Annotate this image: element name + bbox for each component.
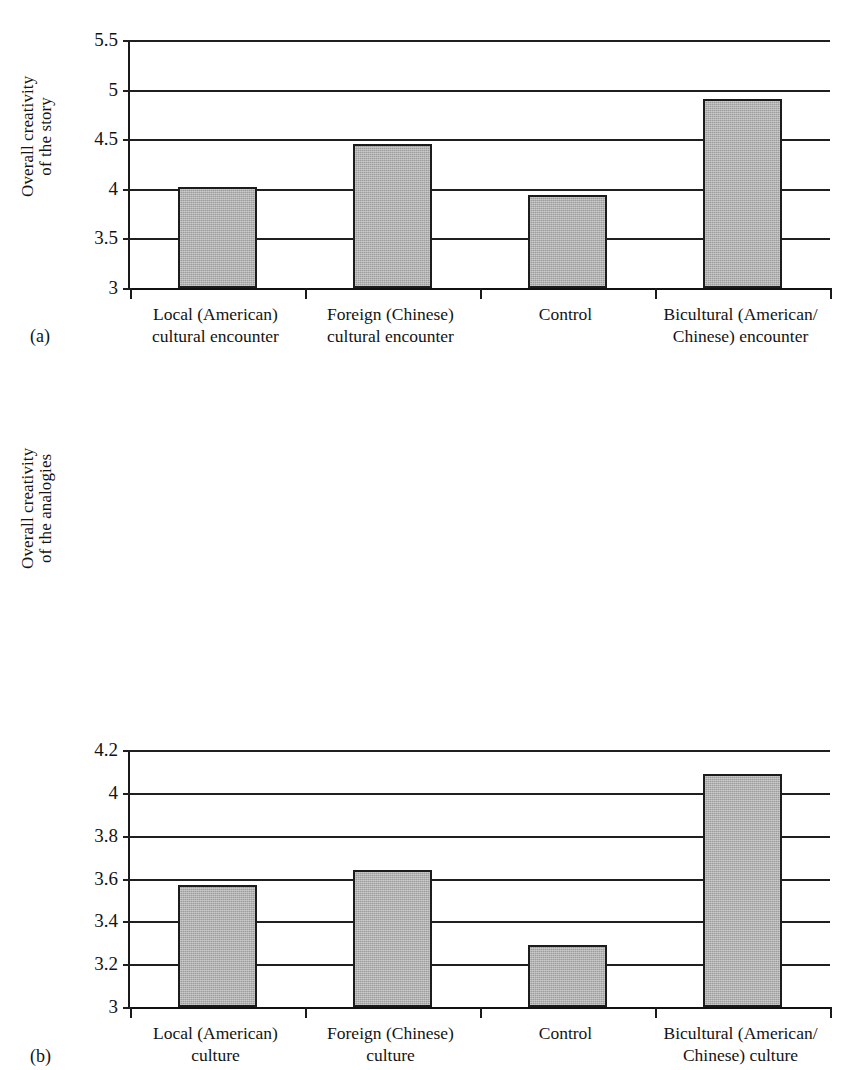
y-axis-tick-label-a: 3 [109, 277, 119, 299]
plot-area-a: 33.544.555.5 [128, 40, 830, 288]
y-axis-title-b: Overall creativity of the analogies [19, 408, 56, 608]
gridline-a [130, 40, 830, 42]
gridline-b [130, 750, 830, 752]
y-axis-tick-label-b: 4.2 [94, 739, 118, 761]
gridline-a [130, 90, 830, 92]
y-axis-tick-label-a: 4 [109, 177, 119, 199]
bar-a-2 [528, 195, 608, 288]
y-axis-tick-label-a: 4.5 [94, 128, 118, 150]
y-axis-tick-a [123, 238, 131, 240]
y-axis-tick-label-b: 3.8 [94, 824, 118, 846]
y-axis-tick-label-b: 3.4 [94, 910, 118, 932]
x-axis-end-tick-b [830, 1007, 832, 1018]
x-axis-tick-b [655, 1007, 657, 1018]
y-axis-tick-b [123, 836, 131, 838]
chart-panel-b: Overall creativity of the analogies 33.2… [0, 365, 851, 743]
panel-letter-b: (b) [30, 1046, 51, 1067]
y-axis-tick-b [123, 964, 131, 966]
y-axis-tick-label-a: 3.5 [94, 227, 118, 249]
y-axis-tick-label-a: 5 [109, 78, 119, 100]
y-axis-tick-b [123, 750, 131, 752]
bar-a-3 [703, 99, 783, 288]
x-axis-end-tick-b [130, 1007, 132, 1018]
x-axis-labels-b: Local (American) cultureForeign (Chinese… [128, 1022, 828, 1070]
x-axis-category-label-b-3: Bicultural (American/ Chinese) culture [653, 1022, 828, 1067]
y-axis-tick-label-b: 3 [109, 996, 119, 1018]
x-axis-category-label-b-0: Local (American) culture [128, 1022, 303, 1067]
x-axis-category-label-a-1: Foreign (Chinese) cultural encounter [303, 303, 478, 348]
x-axis-category-label-a-0: Local (American) cultural encounter [128, 303, 303, 348]
x-axis-tick-b [480, 1007, 482, 1018]
x-axis-tick-a [655, 288, 657, 299]
y-axis-tick-b [123, 793, 131, 795]
x-axis-category-label-a-3: Bicultural (American/ Chinese) encounter [653, 303, 828, 348]
panel-letter-a: (a) [30, 326, 50, 347]
bar-b-2 [528, 945, 608, 1007]
x-axis-category-label-b-2: Control [478, 1022, 653, 1044]
x-axis-tick-a [480, 288, 482, 299]
y-axis-title-a: Overall creativity of the story [19, 36, 56, 236]
x-axis-tick-a [305, 288, 307, 299]
y-axis-tick-b [123, 879, 131, 881]
y-axis-tick-label-b: 3.6 [94, 867, 118, 889]
plot-area-b: 33.23.43.63.844.2 [128, 750, 830, 1007]
y-axis-tick-label-b: 4 [109, 781, 119, 803]
y-axis-tick-label-b: 3.2 [94, 953, 118, 975]
chart-panel-a: Overall creativity of the story 33.544.5… [0, 0, 851, 371]
bar-a-1 [353, 144, 433, 288]
y-axis-tick-a [123, 189, 131, 191]
y-axis-tick-label-a: 5.5 [94, 29, 118, 51]
x-axis-category-label-b-1: Foreign (Chinese) culture [303, 1022, 478, 1067]
y-axis-tick-a [123, 90, 131, 92]
y-axis-tick-b [123, 921, 131, 923]
y-axis-tick-a [123, 139, 131, 141]
bar-b-3 [703, 774, 783, 1007]
x-axis-end-tick-a [130, 288, 132, 299]
x-axis-end-tick-a [830, 288, 832, 299]
bar-a-0 [178, 187, 258, 288]
x-axis-category-label-a-2: Control [478, 303, 653, 325]
bar-b-1 [353, 870, 433, 1007]
x-axis-tick-b [305, 1007, 307, 1018]
x-axis-labels-a: Local (American) cultural encounterForei… [128, 303, 828, 359]
y-axis-tick-a [123, 40, 131, 42]
bar-b-0 [178, 885, 258, 1007]
